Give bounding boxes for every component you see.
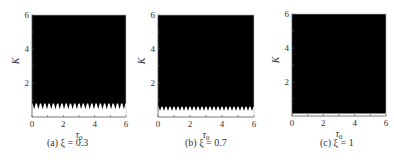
x-tick-label: 0 <box>290 118 295 128</box>
caption-c: (c) ξ = 1 <box>320 137 354 148</box>
y-tick-label: 2 <box>285 77 290 87</box>
x-tick-label: 4 <box>352 118 357 128</box>
y-axis-label: K <box>270 55 281 64</box>
y-tick-label: 6 <box>285 9 290 19</box>
x-tick-label: 2 <box>321 118 326 128</box>
y-tick-label: 4 <box>285 43 290 53</box>
x-tick-label: 6 <box>384 118 389 128</box>
stability-region <box>292 14 386 113</box>
